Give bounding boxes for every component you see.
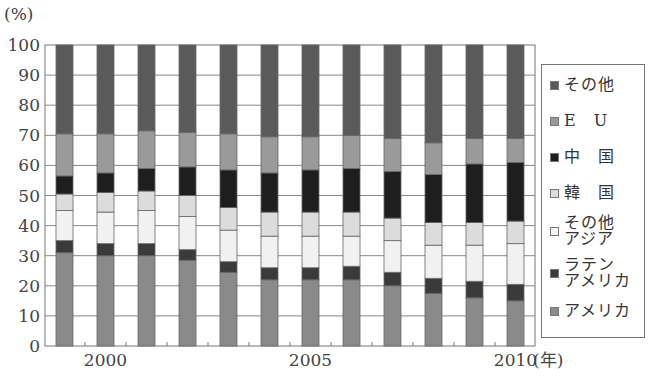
bar-segment [302,137,319,170]
bar-segment [384,272,401,286]
bar-segment [261,280,278,346]
bar-segment [97,212,114,244]
legend-item-latin-america: ラテン アメリカ [550,257,631,289]
bar-segment [56,241,73,253]
y-tick-label: 80 [18,95,40,115]
bar-segment [97,134,114,173]
bar-segment [261,268,278,280]
legend-label-korea: 韓国 [564,185,632,201]
bar-segment [138,211,155,244]
bar-segment [138,168,155,191]
bar-segment [507,45,524,138]
bar-segment [261,212,278,236]
bar-segment [138,131,155,169]
y-tick-label: 40 [18,216,40,236]
y-tick-label: 20 [18,276,40,296]
legend-label-latin-america: ラテン アメリカ [564,257,631,289]
bar-segment [56,194,73,211]
bar-segment [302,170,319,212]
y-tick-label: 70 [18,125,40,145]
legend-swatch-korea [550,189,559,198]
legend-swatch-other [550,81,559,90]
legend-label-other: その他 [564,77,615,93]
bar-segment [97,192,114,212]
bar-segment [343,236,360,266]
bar-segment [97,256,114,346]
x-tick-label: 2000 [84,350,127,370]
bar-segment [138,244,155,256]
legend-swatch-eu [550,117,559,126]
bar-segment [384,138,401,171]
bar-segment [302,236,319,268]
legend-swatch-america [550,307,559,316]
bar-segment [97,173,114,193]
bar-segment [507,244,524,285]
legend-item-korea: 韓国 [550,185,632,201]
bar-segment [384,45,401,138]
bar-segment [384,286,401,346]
bar-segment [261,45,278,137]
y-tick-label: 0 [29,336,40,356]
bar-segment [343,212,360,236]
bar-segment [179,45,196,132]
bar-segment [343,135,360,168]
bar-segment [302,280,319,346]
legend-item-other-asia: その他 アジア [550,215,615,247]
bar-segment [425,223,442,246]
bar-segment [507,301,524,346]
bar-segment [179,167,196,196]
bar-segment [507,162,524,221]
bar-segment [425,143,442,175]
bar-segment [507,221,524,244]
bar-segment [220,230,237,262]
bar-segment [425,293,442,346]
bar-segment [138,191,155,211]
bar-segment [302,45,319,137]
bar-segment [343,266,360,280]
bar-segment [56,253,73,346]
bar-segment [466,245,483,281]
y-tick-label: 100 [8,35,40,55]
bar-segment [466,298,483,346]
bar-segment [466,223,483,246]
bar-segment [507,284,524,301]
legend-label-other-asia: その他 アジア [564,215,615,247]
bar-segment [179,250,196,261]
bar-segment [220,134,237,170]
legend-label-china: 中国 [564,149,632,165]
bar-segment [220,170,237,208]
bar-segment [466,45,483,138]
bar-segment [138,256,155,346]
bar-segment [56,134,73,176]
bar-segment [138,45,155,131]
y-tick-label: 10 [18,306,40,326]
bar-segment [466,164,483,223]
legend-item-china: 中国 [550,149,632,165]
bar-segment [261,236,278,268]
y-tick-label: 60 [18,155,40,175]
y-tick-label: 30 [18,246,40,266]
bar-segment [466,281,483,298]
legend-label-eu: EU [564,113,625,129]
bar-segment [56,211,73,241]
x-tick-label: 2005 [289,350,332,370]
bar-segment [179,196,196,217]
bar-segment [343,280,360,346]
legend-swatch-other-asia [550,227,559,236]
bar-segment [261,137,278,173]
bar-segment [302,268,319,280]
legend: その他 EU 中国 韓国 その他 アジア ラテン アメリカ アメリカ [541,64,645,338]
bar-segment [384,218,401,241]
legend-swatch-latin-america [550,269,559,278]
bar-segment [97,45,114,134]
legend-swatch-china [550,153,559,162]
legend-item-eu: EU [550,113,625,129]
bar-segment [384,241,401,273]
bar-segment [56,45,73,134]
bar-segment [97,244,114,256]
bar-segment [220,272,237,346]
bar-segment [179,217,196,250]
y-tick-label: 90 [18,65,40,85]
legend-item-america: アメリカ [550,303,631,319]
bar-segment [507,138,524,162]
